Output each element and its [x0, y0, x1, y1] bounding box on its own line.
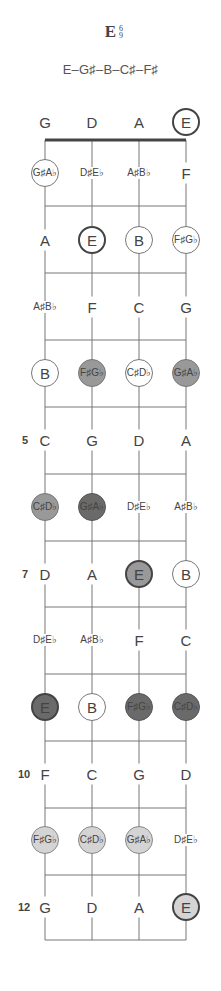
note-name: G — [133, 766, 145, 783]
note-name: D♭ — [45, 502, 57, 512]
note-name: A — [87, 566, 97, 583]
note-name: E♭ — [45, 634, 57, 645]
note-fret12-string-D: D — [86, 897, 99, 918]
note-name: C — [181, 632, 192, 649]
note-fret6-string-G: C♯D♭ — [31, 493, 59, 521]
fret-number-7: 7 — [22, 568, 28, 580]
note-name: B♭ — [45, 301, 57, 312]
note-name: B — [87, 699, 97, 716]
note-name: B♭ — [186, 501, 198, 512]
note-fret11-string-G: F♯G♭ — [31, 826, 59, 854]
note-fret9-string-D: B — [78, 693, 106, 721]
note-name: E — [181, 114, 191, 131]
note-fret4-string-D: F♯G♭ — [78, 359, 106, 387]
note-name: A — [134, 114, 144, 131]
note-name: F♯ — [174, 235, 185, 245]
note-name: D♭ — [92, 835, 104, 845]
note-name: G♭ — [44, 835, 57, 845]
note-name: A♯ — [33, 301, 45, 312]
note-name: F — [181, 165, 190, 182]
note-fret4-string-G: B — [31, 359, 59, 387]
note-fret5-string-A: D — [133, 430, 146, 451]
note-fret2-string-E: F♯G♭ — [172, 226, 200, 254]
note-fret1-string-G: G♯A♭ — [31, 159, 59, 187]
note-fret8-string-E: C — [180, 630, 193, 651]
note-fret1-string-D: D♯E♭ — [80, 167, 104, 179]
note-name: B — [40, 365, 50, 382]
note-name: C — [40, 432, 51, 449]
note-fret0-string-E: E — [172, 108, 200, 136]
note-fret10-string-D: C — [86, 764, 99, 785]
note-name: G♯ — [174, 368, 187, 378]
note-fret9-string-G: E — [31, 693, 59, 721]
note-name: E — [40, 699, 50, 716]
note-fret7-string-A: E — [125, 560, 153, 588]
note-fret2-string-D: E — [78, 226, 106, 254]
note-name: F — [40, 766, 49, 783]
note-name: B — [134, 232, 144, 249]
note-name: D — [40, 566, 51, 583]
note-fret7-string-E: B — [172, 560, 200, 588]
note-fret7-string-G: D — [39, 564, 52, 585]
note-fret1-string-E: F — [180, 163, 191, 184]
note-name: G♯ — [127, 835, 140, 845]
note-name: B — [181, 566, 191, 583]
note-fret8-string-A: F — [133, 630, 144, 651]
fret-number-12: 12 — [18, 901, 30, 913]
note-name: A♭ — [140, 835, 152, 845]
note-fret0-string-D: D — [86, 112, 99, 133]
note-name: C♯ — [80, 835, 92, 845]
note-fret8-string-D: A♯B♭ — [80, 634, 103, 646]
note-name: D♯ — [33, 634, 45, 645]
note-name: F — [134, 632, 143, 649]
note-name: A♭ — [187, 368, 199, 378]
note-name: E — [181, 899, 191, 916]
note-fret6-string-D: G♯A♭ — [78, 493, 106, 521]
note-fret8-string-G: D♯E♭ — [33, 634, 57, 646]
note-name: D — [87, 899, 98, 916]
note-name: E — [134, 566, 144, 583]
note-name: A — [181, 432, 191, 449]
note-name: G — [86, 432, 98, 449]
note-fret5-string-E: A — [180, 430, 192, 451]
fret-number-10: 10 — [18, 768, 30, 780]
note-fret12-string-E: E — [172, 893, 200, 921]
note-name: F — [87, 299, 96, 316]
note-fret3-string-D: F — [86, 297, 97, 318]
note-name: A♯ — [80, 634, 92, 645]
note-fret11-string-E: D♯E♭ — [174, 834, 198, 846]
note-name: G♭ — [138, 702, 151, 712]
note-fret4-string-A: C♯D♭ — [125, 359, 153, 387]
note-name: G♯ — [80, 502, 93, 512]
note-fret11-string-D: C♯D♭ — [78, 826, 106, 854]
note-name: A♯ — [127, 167, 139, 178]
note-name: G♯ — [33, 168, 46, 178]
note-name: D♯ — [174, 834, 186, 845]
note-fret0-string-G: G — [38, 112, 52, 133]
note-name: D — [134, 432, 145, 449]
note-fret4-string-E: G♯A♭ — [172, 359, 200, 387]
note-fret11-string-A: G♯A♭ — [125, 826, 153, 854]
note-name: D♭ — [186, 702, 198, 712]
note-fret12-string-G: G — [38, 897, 52, 918]
note-name: C♯ — [174, 702, 186, 712]
note-name: A — [40, 232, 50, 249]
note-name: E♭ — [139, 501, 151, 512]
note-name: D — [181, 766, 192, 783]
note-fret1-string-A: A♯B♭ — [127, 167, 150, 179]
note-name: B♭ — [92, 634, 104, 645]
note-fret5-string-G: C — [39, 430, 52, 451]
note-name: C — [134, 299, 145, 316]
note-name: C♯ — [33, 502, 45, 512]
note-name: G♭ — [91, 368, 104, 378]
note-fret9-string-A: F♯G♭ — [125, 693, 153, 721]
note-name: A — [134, 899, 144, 916]
note-name: E♭ — [92, 167, 104, 178]
note-name: A♭ — [46, 168, 58, 178]
note-name: F♯ — [80, 368, 91, 378]
note-name: G♭ — [185, 235, 198, 245]
note-name: A♯ — [174, 501, 186, 512]
note-fret9-string-E: C♯D♭ — [172, 693, 200, 721]
note-name: G — [39, 114, 51, 131]
note-name: E♭ — [186, 834, 198, 845]
